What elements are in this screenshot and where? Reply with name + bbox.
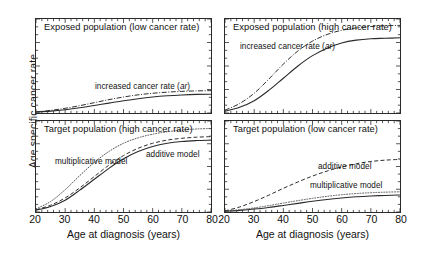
panel-title-bottom-right: Target population (low cancer rate) xyxy=(233,124,378,134)
x-tick-label: 30 xyxy=(248,213,260,225)
panel-title-top-right: Exposed population (high cancer rate) xyxy=(233,22,392,32)
x-tick-labels-right: 20304050607080 xyxy=(224,213,401,227)
plot-top-right xyxy=(225,19,400,113)
curve-additive-bl xyxy=(36,137,211,210)
annotation-increased-rate-tr: increased cancer rate (ar) xyxy=(240,42,335,51)
panel-title-top-left: Exposed population (low cancer rate) xyxy=(44,22,199,32)
x-tick-label: 70 xyxy=(366,213,378,225)
x-tick-label: 30 xyxy=(59,213,71,225)
x-tick-label: 50 xyxy=(307,213,319,225)
x-axis-label-right: Age at diagnosis (years) xyxy=(224,228,401,240)
x-tick-label: 60 xyxy=(147,213,159,225)
x-tick-labels-left: 20304050607080 xyxy=(35,213,212,227)
plot-bottom-right xyxy=(225,121,400,212)
tick-marks-top-right xyxy=(225,19,400,113)
x-tick-label: 70 xyxy=(177,213,189,225)
annotation-additive-br: additive model xyxy=(318,162,372,171)
x-tick-label: 80 xyxy=(206,213,218,225)
panel-title-bottom-left: Target population (high cancer rate) xyxy=(44,124,193,134)
x-tick-label: 40 xyxy=(88,213,100,225)
annotation-multiplicative-br: multiplicative model xyxy=(310,181,382,190)
x-tick-label: 20 xyxy=(29,213,41,225)
x-tick-label: 50 xyxy=(118,213,130,225)
annotation-multiplicative-bl: multiplicative model xyxy=(55,157,127,166)
plot-bottom-left xyxy=(36,121,211,212)
annotation-additive-bl: additive model xyxy=(146,150,200,159)
annotation-increased-rate-tr-close: ) xyxy=(332,42,335,51)
tick-marks-top-left xyxy=(36,19,211,113)
panel-top-left xyxy=(35,18,212,114)
x-tick-label: 80 xyxy=(395,213,407,225)
x-tick-label: 60 xyxy=(336,213,348,225)
annotation-increased-rate-tl: increased cancer rate (ar) xyxy=(95,82,190,91)
annotation-increased-rate-tr-text: increased cancer rate ( xyxy=(240,42,325,51)
annotation-increased-rate-tl-text: increased cancer rate ( xyxy=(95,82,180,91)
plot-top-left xyxy=(36,19,211,113)
annotation-increased-rate-tl-close: ) xyxy=(187,82,190,91)
tick-marks-bottom-left xyxy=(36,121,211,212)
figure-canvas: Age specific cancer rate Exposed populat… xyxy=(0,0,421,255)
panel-top-right xyxy=(224,18,401,114)
x-tick-label: 20 xyxy=(218,213,230,225)
curve-multiplicative-bl xyxy=(36,128,211,208)
x-tick-label: 40 xyxy=(277,213,289,225)
x-axis-label-left: Age at diagnosis (years) xyxy=(35,228,212,240)
